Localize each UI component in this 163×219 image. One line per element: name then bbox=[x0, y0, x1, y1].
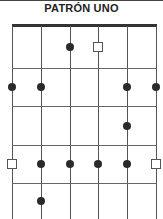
string-6 bbox=[156, 26, 157, 219]
nut bbox=[12, 24, 157, 27]
string-2 bbox=[41, 26, 42, 219]
root-note-square-icon bbox=[7, 159, 17, 169]
pattern-title: PATRÓN UNO bbox=[0, 2, 163, 14]
note-dot-icon bbox=[37, 83, 45, 91]
fret-line-4 bbox=[12, 183, 157, 184]
fret-line-2 bbox=[12, 106, 157, 107]
fret-line-1 bbox=[12, 68, 157, 69]
string-4 bbox=[98, 26, 99, 219]
string-1 bbox=[12, 26, 13, 219]
note-dot-icon bbox=[123, 160, 131, 168]
string-3 bbox=[70, 26, 71, 219]
root-note-square-icon bbox=[151, 159, 161, 169]
note-dot-icon bbox=[8, 83, 16, 91]
fret-line-3 bbox=[12, 145, 157, 146]
note-dot-icon bbox=[123, 83, 131, 91]
note-dot-icon bbox=[37, 160, 45, 168]
note-dot-icon bbox=[152, 83, 160, 91]
note-dot-icon bbox=[37, 197, 45, 205]
note-dot-icon bbox=[66, 160, 74, 168]
note-dot-icon bbox=[66, 43, 74, 51]
root-note-square-icon bbox=[93, 42, 103, 52]
note-dot-icon bbox=[94, 160, 102, 168]
note-dot-icon bbox=[123, 122, 131, 130]
top-border bbox=[0, 0, 163, 1]
